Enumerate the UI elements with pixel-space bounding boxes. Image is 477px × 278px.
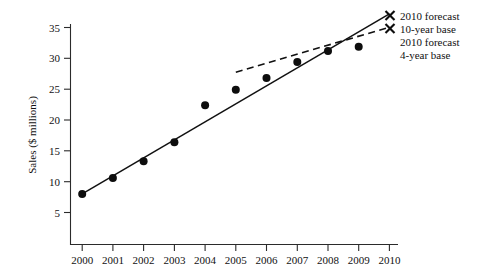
data-point (355, 43, 363, 51)
y-axis-ticks (64, 28, 71, 213)
data-point (170, 138, 178, 146)
y-tick-label-35: 35 (49, 22, 61, 34)
data-point (293, 58, 301, 66)
y-tick-label-15: 15 (49, 145, 61, 157)
x-tick-label-2010: 2010 (378, 254, 401, 266)
legend-label-10-year-base-line1: 2010 forecast (400, 10, 460, 22)
data-point-group (78, 43, 363, 198)
data-point (263, 74, 271, 82)
y-tick-label-5: 5 (55, 207, 61, 219)
x-tick-label-2000: 2000 (71, 254, 94, 266)
x-tick-label-2009: 2009 (348, 254, 371, 266)
trend-line-4-year-base (236, 27, 390, 72)
y-tick-label-30: 30 (49, 52, 61, 64)
x-tick-label-2004: 2004 (194, 254, 217, 266)
x-tick-label-2008: 2008 (317, 254, 340, 266)
x-tick-label-2005: 2005 (225, 254, 248, 266)
x-axis-ticks (82, 245, 389, 252)
y-tick-label-20: 20 (49, 114, 61, 126)
x-tick-label-2006: 2006 (256, 254, 279, 266)
chart-canvas: 35 30 25 20 15 10 5 Sales ($ millions) 2… (0, 0, 477, 278)
legend-label-4-year-base-line2: 4-year base (400, 49, 451, 61)
data-point (232, 86, 240, 94)
data-point (140, 157, 148, 165)
x-tick-label-2007: 2007 (286, 254, 309, 266)
x-tick-label-2002: 2002 (133, 254, 155, 266)
x-tick-label-2003: 2003 (163, 254, 186, 266)
data-point (109, 174, 117, 182)
trend-line-10-year-base (82, 14, 389, 194)
legend-label-10-year-base-line2: 10-year base (400, 23, 456, 35)
legend-label-4-year-base-line1: 2010 forecast (400, 36, 460, 48)
sales-forecast-chart: 35 30 25 20 15 10 5 Sales ($ millions) 2… (0, 0, 477, 278)
data-point (324, 47, 332, 55)
y-tick-label-25: 25 (49, 83, 61, 95)
y-axis-title: Sales ($ millions) (26, 96, 39, 174)
y-tick-label-10: 10 (49, 176, 61, 188)
x-tick-label-2001: 2001 (102, 254, 124, 266)
data-point (78, 190, 86, 198)
legend-marker-4-year-base-icon (386, 24, 395, 33)
data-point (201, 101, 209, 109)
